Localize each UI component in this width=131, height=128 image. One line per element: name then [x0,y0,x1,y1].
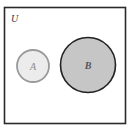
set-b-label: B [84,60,92,71]
set-a-label: A [29,61,37,72]
universe-label: U [11,13,19,24]
venn-diagram: U A B [0,0,131,128]
